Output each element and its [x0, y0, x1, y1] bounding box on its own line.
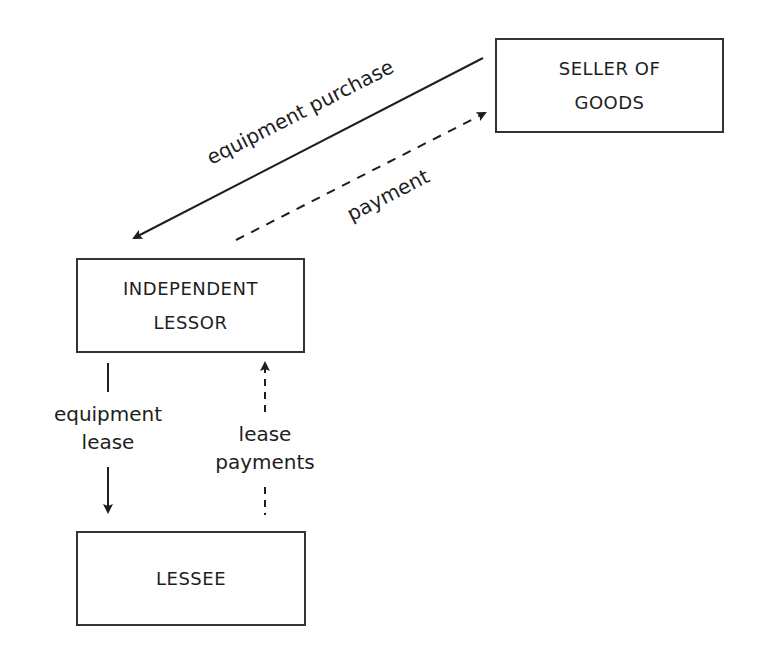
lease-payments-label: lease payments: [205, 420, 325, 476]
equipment-lease-line1: equipment: [38, 400, 178, 428]
lease-payments-line2: payments: [205, 448, 325, 476]
independent-lessor-node: INDEPENDENT LESSOR: [76, 258, 305, 353]
lessee-line1: LESSEE: [156, 562, 226, 596]
seller-line1: SELLER OF: [559, 52, 660, 86]
equipment-lease-label: equipment lease: [38, 400, 178, 456]
equipment-lease-line2: lease: [38, 428, 178, 456]
seller-of-goods-node: SELLER OF GOODS: [495, 38, 724, 133]
lessor-line1: INDEPENDENT: [123, 272, 258, 306]
equipment-purchase-arrow: [134, 58, 483, 238]
lease-payments-line1: lease: [205, 420, 325, 448]
lessee-node: LESSEE: [76, 531, 306, 626]
seller-line2: GOODS: [574, 86, 644, 120]
lessor-line2: LESSOR: [154, 306, 228, 340]
